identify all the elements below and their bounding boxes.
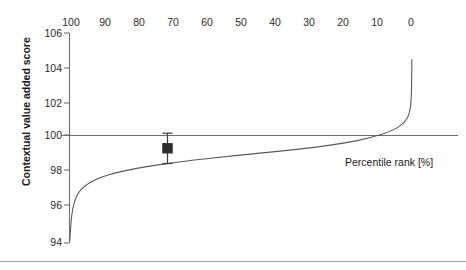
y-tick-label: 106 <box>44 27 62 39</box>
x-tick-label: 70 <box>167 16 179 28</box>
y-tick-label: 104 <box>44 62 62 74</box>
y-tick-label: 102 <box>44 97 62 109</box>
y-axis-tickmarks <box>64 33 70 243</box>
chart-figure: 100 90 80 70 60 50 40 30 20 10 0 106 104… <box>0 0 466 270</box>
x-tick-label: 60 <box>201 16 213 28</box>
x-tick-label: 30 <box>303 16 315 28</box>
y-tick-label: 94 <box>50 236 62 248</box>
x-tick-label: 80 <box>133 16 145 28</box>
x-tick-label: 0 <box>408 16 414 28</box>
x-tick-label: 10 <box>371 16 383 28</box>
chart-plot-area: 100 90 80 70 60 50 40 30 20 10 0 106 104… <box>0 0 466 270</box>
y-axis-title: Contextual value added score <box>20 37 32 186</box>
x-axis-title: Percentile rank [%] <box>345 156 433 168</box>
x-axis-tick-labels: 100 90 80 70 60 50 40 30 20 10 0 <box>62 16 414 28</box>
x-tick-label: 50 <box>235 16 247 28</box>
y-tick-label: 98 <box>50 164 62 176</box>
x-tick-label: 40 <box>269 16 281 28</box>
y-tick-label: 96 <box>50 199 62 211</box>
data-point-marker-square <box>163 144 172 153</box>
y-tick-label: 100 <box>44 129 62 141</box>
x-tick-label: 20 <box>337 16 349 28</box>
value-added-curve <box>70 60 412 241</box>
footer-divider <box>0 261 466 262</box>
highlighted-data-point <box>163 133 173 163</box>
y-axis-tick-labels: 106 104 102 100 98 96 94 <box>44 27 62 248</box>
x-tick-label: 90 <box>99 16 111 28</box>
x-tick-label: 100 <box>62 16 80 28</box>
